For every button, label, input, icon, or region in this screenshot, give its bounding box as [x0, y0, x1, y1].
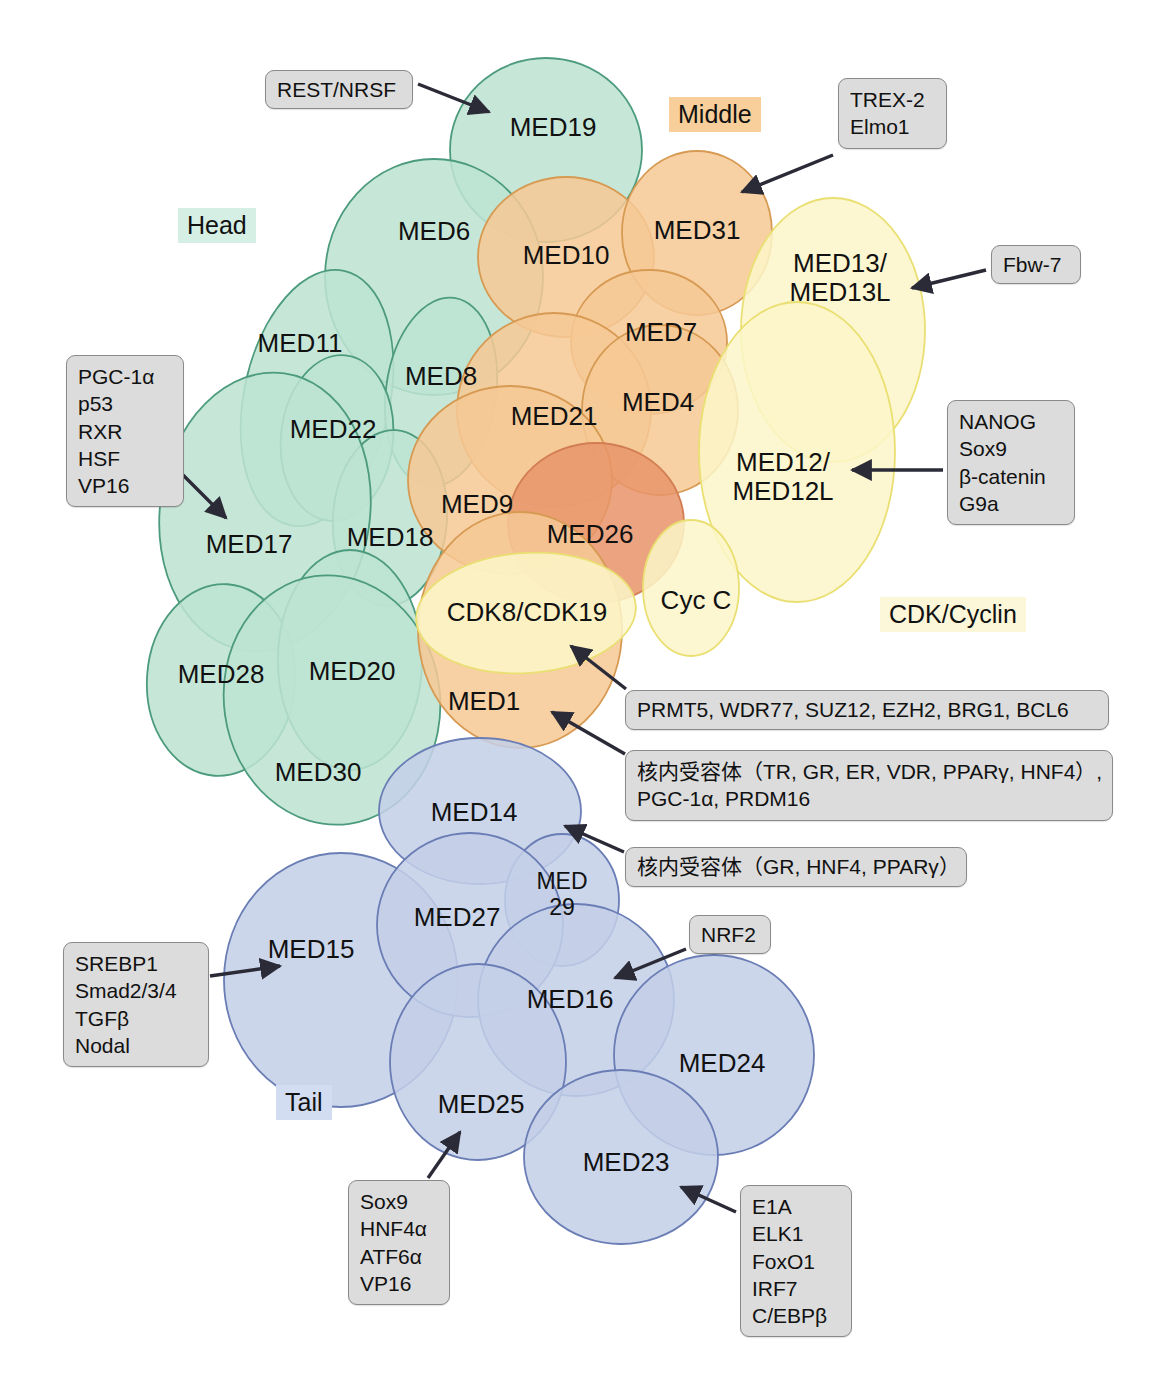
callout-line: ATF6α: [360, 1243, 438, 1270]
callout-line: ELK1: [752, 1220, 840, 1247]
callout-line: 核内受容体（GR, HNF4, PPARγ）: [637, 853, 955, 880]
callout-line: Fbw-7: [1003, 251, 1069, 278]
callout-line: TGFβ: [75, 1005, 197, 1032]
section-label-head: Head: [178, 208, 256, 243]
callout-line: Nodal: [75, 1032, 197, 1059]
arrow-trex-to-med31: [742, 155, 833, 192]
subunit-ellipses: [140, 58, 925, 1244]
callout-line: NANOG: [959, 408, 1063, 435]
callout-srebp[interactable]: SREBP1Smad2/3/4TGFβNodal: [63, 942, 209, 1067]
callout-line: Sox9: [360, 1188, 438, 1215]
section-label-tail: Tail: [276, 1085, 332, 1120]
callout-pgc[interactable]: PGC-1αp53RXRHSFVP16: [66, 355, 184, 507]
callout-line: β-catenin: [959, 463, 1063, 490]
callout-nanog[interactable]: NANOGSox9β-cateninG9a: [947, 400, 1075, 525]
callout-line: FoxO1: [752, 1248, 840, 1275]
callout-line: PGC-1α: [78, 363, 172, 390]
callout-line: Elmo1: [850, 113, 935, 140]
callout-line: C/EBPβ: [752, 1302, 840, 1329]
subunit-ellipse-med23[interactable]: [524, 1070, 718, 1244]
subunit-ellipse-cycc[interactable]: [643, 520, 739, 656]
callout-line: RXR: [78, 418, 172, 445]
callout-line: SREBP1: [75, 950, 197, 977]
callout-line: HSF: [78, 445, 172, 472]
callout-fbw7[interactable]: Fbw-7: [991, 245, 1081, 284]
callout-line: PRMT5, WDR77, SUZ12, EZH2, BRG1, BCL6: [637, 696, 1097, 723]
callout-line: PGC-1α, PRDM16: [637, 785, 1101, 812]
callout-prmt5[interactable]: PRMT5, WDR77, SUZ12, EZH2, BRG1, BCL6: [625, 690, 1109, 730]
callout-nrf2[interactable]: NRF2: [689, 915, 771, 954]
callout-line: Smad2/3/4: [75, 977, 197, 1004]
callout-line: VP16: [78, 472, 172, 499]
callout-line: TREX-2: [850, 86, 935, 113]
callout-line: p53: [78, 390, 172, 417]
section-label-middle: Middle: [669, 97, 761, 132]
callout-line: Sox9: [959, 435, 1063, 462]
callout-rest[interactable]: REST/NRSF: [265, 70, 413, 109]
callout-line: IRF7: [752, 1275, 840, 1302]
callout-line: 核内受容体（TR, GR, ER, VDR, PPARγ, HNF4）,: [637, 758, 1101, 785]
callout-line: REST/NRSF: [277, 76, 401, 103]
callout-line: NRF2: [701, 921, 759, 948]
callout-line: G9a: [959, 490, 1063, 517]
arrow-fbw7-to-med13: [912, 270, 986, 288]
callout-sox9[interactable]: Sox9HNF4αATF6αVP16: [348, 1180, 450, 1305]
callout-line: HNF4α: [360, 1215, 438, 1242]
callout-line: E1A: [752, 1193, 840, 1220]
ellipse-layer: [0, 0, 1168, 1373]
callout-trex[interactable]: TREX-2Elmo1: [838, 78, 947, 149]
section-label-cdk: CDK/Cyclin: [880, 597, 1026, 632]
callout-nr2[interactable]: 核内受容体（GR, HNF4, PPARγ）: [625, 847, 967, 887]
callout-e1a[interactable]: E1AELK1FoxO1IRF7C/EBPβ: [740, 1185, 852, 1337]
diagram-canvas: MED19MED6MED11MED8MED22MED18MED17MED28ME…: [0, 0, 1168, 1373]
callout-line: VP16: [360, 1270, 438, 1297]
callout-nr1[interactable]: 核内受容体（TR, GR, ER, VDR, PPARγ, HNF4）,PGC-…: [625, 750, 1113, 821]
